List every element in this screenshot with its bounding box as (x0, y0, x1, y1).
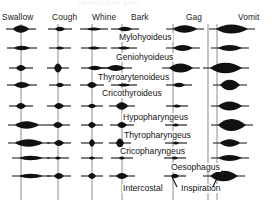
muscle-label-thyropharyngeus: Thyropharyngeus (123, 131, 192, 140)
emg-trace-group (6, 25, 255, 182)
emg-burst-cricopharyngeus (173, 142, 179, 145)
muscle-label-mylohyoideus: Mylohyoideus (118, 33, 173, 42)
muscle-label-hypopharyngeus: Hypopharyngeus (122, 113, 189, 122)
emg-burst-cricopharyngeus (54, 140, 64, 146)
emg-burst-mylohyoideus (55, 27, 65, 32)
emg-burst-hypopharyngeus (54, 103, 64, 109)
emg-burst-geniohyoideus (56, 47, 64, 50)
column-header-cough: Cough (52, 12, 77, 22)
emg-burst-thyroarytenoideus (54, 64, 62, 73)
behaviour-column-bark (100, 27, 139, 179)
emg-burst-geniohyoideus (88, 47, 100, 50)
emg-burst-thyropharyngeus (88, 122, 96, 128)
emg-burst-thyropharyngeus (173, 124, 179, 127)
muscle-label-oesophagus: Oesophagus (170, 163, 221, 172)
emg-burst-thyroarytenoideus (210, 63, 242, 74)
emg-burst-thyroarytenoideus (88, 66, 102, 71)
emg-burst-cricothyroideus (87, 82, 97, 88)
emg-burst-mylohyoideus (13, 25, 29, 33)
muscle-label-thyroarytenoideus: Thyroarytenoideus (97, 73, 170, 82)
emg-burst-hypopharyngeus (16, 103, 26, 109)
emg-burst-intercostal (54, 173, 64, 179)
emg-burst-intercostal (19, 174, 43, 179)
emg-burst-hypopharyngeus (173, 105, 181, 108)
emg-burst-hypopharyngeus (218, 102, 242, 111)
emg-burst-cricothyroideus (56, 83, 64, 88)
emg-burst-intercostal (171, 174, 179, 179)
emg-burst-cricothyroideus (220, 80, 240, 91)
behaviour-column-cough (46, 27, 72, 179)
emg-burst-thyropharyngeus (53, 122, 63, 128)
behaviour-column-whine (80, 28, 109, 180)
emg-burst-oesophagus (218, 155, 242, 161)
muscle-label-cricothyroideus: Cricothyroideus (101, 89, 163, 98)
emg-burst-hypopharyngeus (116, 102, 128, 110)
emg-burst-cricothyroideus (118, 84, 130, 87)
emg-burst-intercostal (116, 173, 128, 179)
emg-burst-geniohyoideus (173, 45, 193, 51)
muscle-label-inspiration: Inspiration (180, 184, 222, 193)
muscle-label-intercostal: Intercostal (122, 184, 164, 193)
muscle-label-geniohyoideus: Geniohyoideus (115, 53, 174, 62)
emg-burst-thyropharyngeus (218, 119, 246, 131)
emg-burst-mylohyoideus (118, 27, 132, 32)
emg-burst-mylohyoideus (173, 25, 197, 33)
emg-burst-thyroarytenoideus (16, 65, 26, 71)
emg-burst-mylohyoideus (216, 25, 248, 34)
emg-burst-geniohyoideus (14, 46, 30, 51)
emg-burst-oesophagus (19, 156, 43, 161)
emg-burst-hypopharyngeus (88, 104, 96, 109)
emg-burst-cricopharyngeus (15, 139, 43, 147)
emg-burst-thyropharyngeus (15, 121, 39, 129)
behaviour-column-swallow (6, 25, 50, 178)
column-header-bark: Bark (131, 12, 149, 22)
column-header-vomit: Vomit (238, 12, 259, 22)
column-header-swallow: Swallow (2, 12, 33, 22)
muscle-label-cricopharyngeus: Cricopharyngeus (119, 147, 186, 156)
emg-burst-thyropharyngeus (117, 122, 127, 128)
column-header-whine: Whine (92, 12, 116, 22)
emg-burst-cricothyroideus (14, 82, 30, 88)
emg-burst-cricopharyngeus (220, 139, 240, 147)
emg-burst-cricothyroideus (173, 83, 185, 88)
behaviour-column-vomit (203, 25, 255, 182)
emg-burst-mylohyoideus (87, 28, 101, 31)
emg-burst-intercostal (210, 171, 238, 182)
emg-burst-geniohyoideus (118, 47, 130, 50)
column-header-gag: Gag (186, 12, 202, 22)
emg-burst-oesophagus (89, 157, 95, 160)
emg-burst-oesophagus (55, 157, 61, 160)
emg-burst-cricopharyngeus (89, 139, 95, 147)
emg-burst-geniohyoideus (218, 45, 242, 51)
emg-burst-oesophagus (119, 157, 125, 160)
emg-burst-intercostal (88, 173, 96, 179)
